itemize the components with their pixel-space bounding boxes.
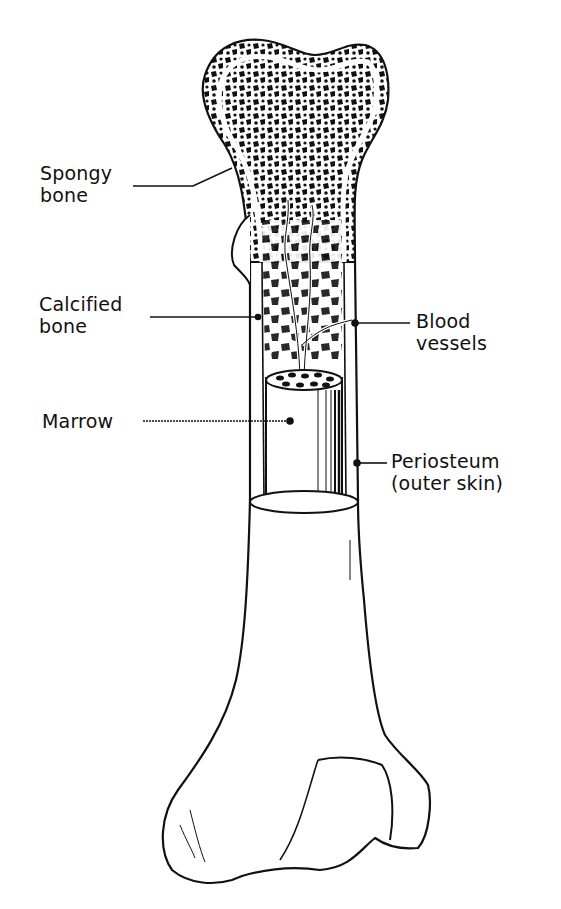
label-spongy-bone-line1: Spongy	[40, 162, 112, 184]
label-periosteum: Periosteum (outer skin)	[391, 450, 503, 494]
label-spongy-bone: Spongy bone	[40, 162, 112, 206]
label-blood-vessels-line1: Blood	[416, 310, 487, 332]
marrow-cylinder	[266, 370, 342, 500]
bone-lower	[163, 491, 430, 883]
label-marrow-line1: Marrow	[42, 410, 113, 432]
label-calcified-bone-line1: Calcified	[39, 293, 122, 315]
bone-diagram: Spongy bone Calcified bone Marrow Blood …	[0, 0, 561, 909]
label-blood-vessels: Blood vessels	[416, 310, 487, 354]
label-periosteum-line2: (outer skin)	[391, 472, 503, 494]
label-calcified-bone: Calcified bone	[39, 293, 122, 337]
label-blood-vessels-line2: vessels	[416, 332, 487, 354]
label-calcified-bone-line2: bone	[39, 315, 122, 337]
label-spongy-bone-line2: bone	[40, 184, 112, 206]
label-periosteum-line1: Periosteum	[391, 450, 503, 472]
label-marrow: Marrow	[42, 410, 113, 432]
